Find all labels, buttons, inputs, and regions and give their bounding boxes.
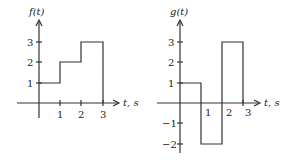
g-y-tick-neg1: −1 <box>162 118 177 129</box>
g-y-tick-2: 2 <box>168 57 174 68</box>
f-x-tick-1: 1 <box>57 109 63 120</box>
f-y-tick-1: 1 <box>27 78 33 89</box>
g-x-tick-1: 1 <box>205 107 211 118</box>
f-x-tick-2: 2 <box>78 109 84 120</box>
g-x-tick-2: 2 <box>226 107 232 118</box>
g-y-label: g(t) <box>170 6 188 17</box>
signals-diagram: f(t) t, s 1 2 3 1 2 3 g(t) t, s 1 2 3 3 … <box>0 0 288 162</box>
g-y-tick-3: 3 <box>168 37 174 48</box>
g-x-label: t, s <box>264 97 280 108</box>
f-x-tick-3: 3 <box>100 109 106 120</box>
f-y-tick-3: 3 <box>27 37 33 48</box>
graph-f <box>17 20 119 118</box>
g-x-tick-3: 3 <box>245 107 251 118</box>
g-y-tick-1: 1 <box>168 78 174 89</box>
f-signal-waveform <box>39 42 103 103</box>
f-x-label: t, s <box>123 97 139 108</box>
f-y-label: f(t) <box>28 6 45 17</box>
f-y-tick-2: 2 <box>27 57 33 68</box>
g-y-tick-neg2: −2 <box>162 139 177 150</box>
g-signal-waveform <box>180 42 243 144</box>
